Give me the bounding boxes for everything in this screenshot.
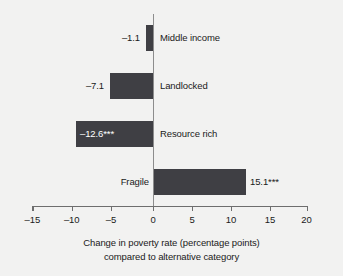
bar-value-fragile: 15.1***	[250, 172, 279, 192]
x-tick-label: 20	[287, 213, 327, 226]
table-row: –12.6*** Resource rich	[0, 110, 343, 158]
bar-value-landlocked: –7.1	[44, 76, 104, 96]
category-label-middle-income: Middle income	[160, 28, 220, 48]
x-tick-label: –5	[91, 213, 131, 226]
x-tick-label: –10	[52, 213, 92, 226]
bar-middle-income	[146, 25, 153, 51]
bar-value-resource-rich: –12.6***	[80, 124, 114, 144]
bar-value-middle-income: –1.1	[80, 28, 140, 48]
table-row: –1.1 Middle income	[0, 14, 343, 62]
x-tick	[72, 206, 73, 211]
zero-axis-line	[153, 14, 154, 206]
x-tick-label: 15	[250, 213, 290, 226]
x-tick-label: 0	[133, 213, 173, 226]
x-tick	[192, 206, 193, 211]
category-label-fragile: Fragile	[121, 172, 149, 192]
x-tick	[32, 206, 33, 211]
category-label-resource-rich: Resource rich	[160, 124, 217, 144]
bar-fragile	[153, 169, 245, 195]
x-axis-line	[32, 206, 307, 207]
x-tick-label: –15	[12, 213, 52, 226]
x-axis-caption: Change in poverty rate (percentage point…	[0, 236, 343, 263]
x-tick-label: 10	[211, 213, 251, 226]
x-tick	[270, 206, 271, 211]
x-axis: –15 –10 –5 0 5 10 15 20	[0, 206, 343, 207]
x-axis-caption-line1: Change in poverty rate (percentage point…	[0, 236, 343, 250]
category-label-landlocked: Landlocked	[160, 76, 208, 96]
x-tick-label: 5	[172, 213, 212, 226]
table-row: –7.1 Landlocked	[0, 62, 343, 110]
table-row: 15.1*** Fragile	[0, 158, 343, 206]
x-tick	[231, 206, 232, 211]
x-tick	[111, 206, 112, 211]
x-tick	[153, 206, 154, 211]
plot-area: –1.1 Middle income –7.1 Landlocked –12.6…	[0, 14, 343, 206]
bar-landlocked	[110, 73, 153, 99]
x-axis-caption-line2: compared to alternative category	[0, 250, 343, 264]
bar-chart: –1.1 Middle income –7.1 Landlocked –12.6…	[0, 0, 343, 276]
x-tick	[307, 206, 308, 211]
